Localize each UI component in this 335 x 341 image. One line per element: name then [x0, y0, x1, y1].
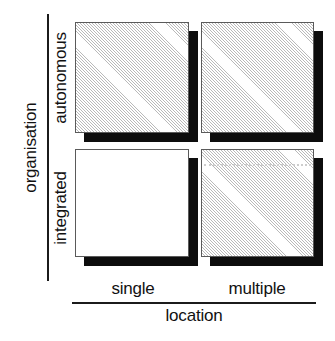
cell-face: [201, 22, 314, 133]
y-tick-label-integrated: integrated: [49, 148, 73, 268]
cell-face: [201, 149, 314, 257]
x-axis-title: location: [72, 306, 316, 326]
y-tick-label-autonomous: autonomous: [49, 18, 73, 138]
x-tick-label-multiple: multiple: [199, 279, 315, 299]
x-tick-label-single: single: [75, 279, 191, 299]
cell-face: [75, 22, 189, 133]
matrix-figure: organisation autonomous integrated singl…: [0, 0, 335, 341]
y-axis-title: organisation: [18, 14, 44, 281]
cell-dotted-divider: [204, 164, 311, 166]
cell-integrated-multiple[interactable]: [201, 149, 314, 257]
cell-face: [75, 149, 189, 257]
x-axis-line: [72, 302, 316, 304]
cell-autonomous-single[interactable]: [75, 22, 189, 133]
cell-autonomous-multiple[interactable]: [201, 22, 314, 133]
cell-integrated-single[interactable]: [75, 149, 189, 257]
